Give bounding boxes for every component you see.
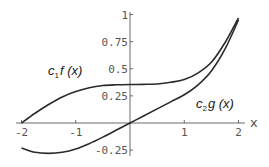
axes: -2-112-0.250.250.50.751x — [15, 9, 258, 158]
x-tick-label: -1 — [69, 126, 82, 139]
x-axis-label: x — [250, 115, 258, 130]
y-tick-label: 0.75 — [102, 36, 129, 49]
x-tick-label: -2 — [15, 126, 28, 139]
y-tick-label: 0.5 — [108, 63, 128, 76]
x-tick-label: 1 — [181, 126, 188, 139]
labels: c1f (x)c2g (x) — [48, 63, 234, 113]
x-tick-label: 2 — [235, 126, 242, 139]
curve-label-c1f: c1f (x) — [48, 63, 82, 80]
y-tick-label: 0.25 — [102, 90, 129, 103]
chart: -2-112-0.250.250.50.751x c1f (x)c2g (x) — [0, 0, 269, 167]
y-tick-label: 1 — [121, 9, 128, 22]
curve-label-c2g: c2g (x) — [196, 96, 234, 113]
y-tick-label: -0.25 — [95, 144, 128, 157]
